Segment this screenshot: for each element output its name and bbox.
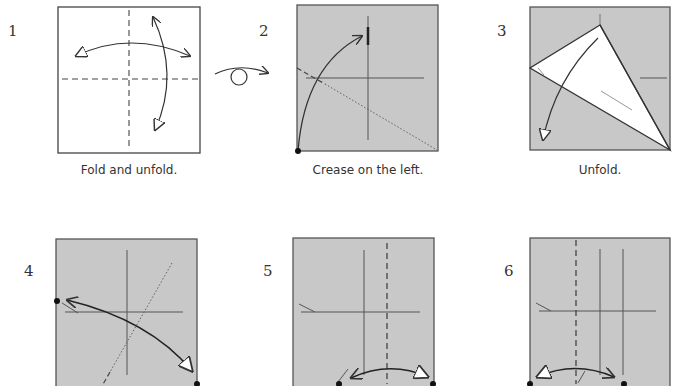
step-5-square (293, 238, 436, 386)
step-4-square (54, 239, 200, 386)
step-1-square (58, 7, 200, 153)
reference-dot-icon (295, 148, 301, 154)
reference-dot-left-icon (54, 298, 60, 304)
origami-diagram: 1 2 3 4 5 6 Fold and unfold. Crease on t… (0, 0, 679, 386)
step-3-square (530, 7, 670, 150)
step-2-square (295, 5, 438, 154)
step-6-square (527, 238, 670, 386)
turn-over-icon (215, 68, 268, 85)
diagram-drawings (0, 0, 679, 386)
